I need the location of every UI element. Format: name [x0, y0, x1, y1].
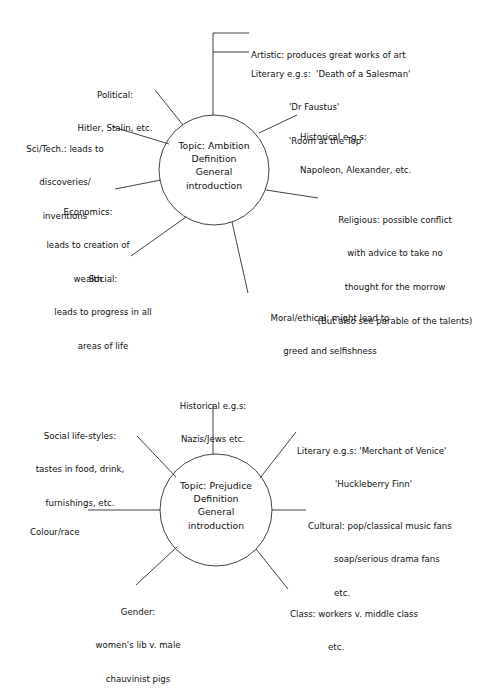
prejudice-historical-line-2: Nazis/Jews etc.: [143, 434, 283, 445]
prejudice-branch-historical: Historical e.g.s: Nazis/Jews etc.: [143, 378, 283, 468]
ambition-political-line-2: Hitler, Stalin, etc.: [65, 123, 165, 134]
prejudice-hub-label: Topic: Prejudice Definition General intr…: [161, 479, 271, 532]
ambition-hub-line-4: introduction: [159, 179, 269, 192]
prejudice-gender-line-3: chauvinist pigs: [58, 674, 218, 685]
ambition-branch-historical: Historical e.g.s: Napoleon, Alexander, e…: [300, 109, 411, 199]
prejudice-cultural-line-1: Cultural: pop/classical music fans: [308, 521, 452, 532]
ambition-historical-line-2: Napoleon, Alexander, etc.: [300, 165, 411, 176]
ambition-branch-political: Political: Hitler, Stalin, etc.: [65, 67, 165, 157]
prejudice-class-line-1: Class: workers v. middle class: [290, 609, 418, 620]
ambition-social-line-2: leads to progress in all: [18, 307, 188, 318]
prejudice-cultural-line-2: soap/serious drama fans: [308, 554, 452, 565]
prejudice-social-line-3: furnishings, etc.: [20, 498, 140, 509]
prejudice-class-line-2: etc.: [290, 642, 418, 653]
prejudice-branch-gender: Gender: women's lib v. male chauvinist p…: [58, 584, 218, 688]
prejudice-social-line-2: tastes in food, drink,: [20, 464, 140, 475]
prejudice-hub-line-3: General: [161, 505, 271, 518]
line-prejudice-class: [256, 549, 288, 589]
prejudice-hub-line-1: Topic: Prejudice: [161, 479, 271, 492]
prejudice-historical-line-1: Historical e.g.s:: [143, 401, 283, 412]
ambition-branch-moral: Moral/ethical: might lead to greed and s…: [245, 290, 415, 380]
prejudice-hub-line-4: introduction: [161, 519, 271, 532]
prejudice-hub-line-2: Definition: [161, 492, 271, 505]
line-prejudice-gender: [136, 547, 177, 585]
ambition-moral-line-1: Moral/ethical: might lead to: [245, 313, 415, 324]
ambition-social-line-3: areas of life: [18, 341, 188, 352]
ambition-moral-line-2: greed and selfishness: [245, 346, 415, 357]
line-ambition-moral: [232, 222, 248, 293]
prejudice-gender-line-2: women's lib v. male: [58, 640, 218, 651]
ambition-scitech-line-3: inventions: [10, 211, 120, 222]
ambition-religious-line-2: with advice to take no: [300, 248, 490, 259]
ambition-political-line-1: Political:: [65, 90, 165, 101]
prejudice-social-line-1: Social life-styles:: [20, 431, 140, 442]
ambition-literary-line-1: Literary e.g.s: 'Death of a Salesman': [251, 69, 410, 80]
ambition-economics-line-3: wealth: [8, 274, 168, 285]
prejudice-gender-line-1: Gender:: [58, 607, 218, 618]
ambition-religious-line-1: Religious: possible conflict: [300, 215, 490, 226]
prejudice-branch-class: Class: workers v. middle class etc.: [290, 586, 418, 676]
prejudice-branch-social-life-styles: Social life-styles: tastes in food, drin…: [20, 408, 140, 532]
prejudice-literary-line-2: 'Huckleberry Finn': [297, 479, 446, 490]
prejudice-literary-line-1: Literary e.g.s: 'Merchant of Venice': [297, 446, 446, 457]
ambition-historical-line-1: Historical e.g.s:: [300, 132, 411, 143]
ambition-scitech-line-2: discoveries/: [10, 177, 120, 188]
